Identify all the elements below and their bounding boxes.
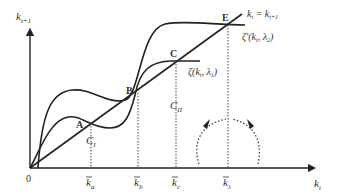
- zeta-label: ζ(kt, λ1): [188, 66, 218, 78]
- cycle-arrow-left: [197, 119, 226, 164]
- tick-ka: ka: [86, 176, 95, 191]
- point-a-label: A: [76, 119, 84, 130]
- phase-diagram: kt+1 kt 0 A B C E kt = kt+1 ζ'(kt, λ2) ζ…: [0, 0, 338, 196]
- zeta-prime-label: ζ'(kt, λ2): [242, 31, 274, 43]
- cluster-ci-label: CI: [86, 134, 96, 149]
- arrowhead-left: [203, 119, 210, 129]
- tick-klambda: kλ: [223, 176, 231, 191]
- point-e-label: E: [222, 12, 229, 23]
- origin-label: 0: [26, 173, 31, 184]
- zeta-curve: [30, 61, 200, 168]
- arrowhead-right: [247, 119, 254, 129]
- point-b-label: B: [126, 85, 133, 96]
- identity-label: kt = kt+1: [247, 8, 278, 20]
- cycle-arrow-right: [232, 119, 259, 164]
- tick-kc: kc: [172, 176, 181, 191]
- cluster-cii-label: CII: [170, 99, 183, 114]
- y-axis-label: kt+1: [16, 10, 31, 25]
- point-c-label: C: [170, 48, 177, 59]
- tick-kb: kb: [134, 176, 143, 191]
- zeta-prime-curve: [38, 22, 245, 168]
- x-axis-label: kt: [314, 177, 322, 192]
